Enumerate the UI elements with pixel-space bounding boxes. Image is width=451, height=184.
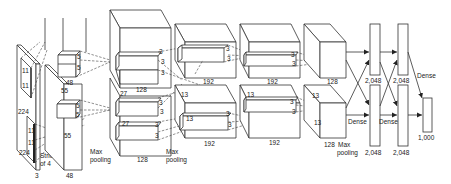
- dense-layers: 2,048 2,048 Dense Dense Dense 2,048 2,04…: [346, 24, 436, 156]
- conv3-spatial-top: 13: [181, 91, 189, 98]
- output-bar: [423, 98, 432, 132]
- conv1-kernel-top-b: 5: [77, 64, 81, 71]
- conv5-pool-label-line2: pooling: [337, 149, 358, 157]
- conv3-depth-top: 192: [203, 78, 214, 85]
- input-width-label: 224: [19, 149, 30, 156]
- input-kernel-label-c: 11: [28, 127, 35, 134]
- conv2-kernel-3: 3: [161, 69, 165, 76]
- conv2-pool-label-line1: Max: [166, 148, 179, 155]
- conv2-kernel-1: 3: [159, 48, 163, 55]
- conv5-layer: 128 13 13 128 Max pooling: [304, 24, 358, 157]
- conv2-spatial-top: 27: [120, 90, 128, 97]
- conv4-kernel-3: 3: [290, 98, 294, 105]
- input-kernel-label-b: 11: [22, 82, 29, 89]
- conv5-block-top: [304, 24, 346, 78]
- conv1-kernel-bottom-a: 5: [76, 102, 80, 109]
- fc6-top-size: 2,048: [365, 77, 382, 84]
- fc7-top-bar: [398, 24, 408, 75]
- input-kernel-label-d: 11: [28, 139, 35, 146]
- conv3-kernel-2: 3: [227, 55, 231, 62]
- conv5-spatial-b: 13: [314, 119, 322, 126]
- conv5-depth-top: 128: [327, 78, 338, 85]
- conv2-spatial-bottom: 27: [122, 120, 130, 127]
- conv4-kernel-2: 3: [292, 60, 296, 67]
- conv2-pool-label-line2: pooling: [166, 156, 187, 164]
- conv2-kernel-7: 3: [155, 132, 159, 139]
- conv2-depth-top: 128: [136, 86, 147, 93]
- stride-label-line2: of 4: [40, 160, 51, 167]
- conv3-kernel-4: 3: [228, 121, 232, 128]
- fc6-top-bar: [370, 24, 380, 75]
- conv4-depth-bottom: 192: [269, 139, 280, 146]
- fc7-bottom-size: 2,048: [393, 149, 410, 156]
- conv1-pool-label-line1: Max: [90, 148, 103, 155]
- conv1-layer: 5 5 48 55 5 5 55 48 Max pooling: [45, 18, 111, 179]
- input-height-label: 224: [18, 108, 29, 115]
- conv5-spatial-a: 13: [312, 92, 320, 99]
- conv4-kernel-4: 3: [292, 108, 296, 115]
- conv1-depth-top: 48: [66, 79, 74, 86]
- conv1-kernel-top-a: 5: [77, 53, 81, 60]
- fc6-bottom-bar: [370, 85, 380, 146]
- conv5-pool-label-line1: Max: [338, 141, 351, 148]
- fc7-top-size: 2,048: [393, 77, 410, 84]
- conv5-block-bottom: [304, 85, 346, 138]
- conv1-spatial-label: 55: [61, 87, 69, 94]
- conv4-depth-top: 192: [267, 78, 278, 85]
- alexnet-diagram: 11 11 224 11 11 224 Stride of 4 3: [0, 0, 451, 184]
- fc6-bottom-size: 2,048: [365, 149, 382, 156]
- conv3-spatial-bottom: 13: [186, 115, 194, 122]
- conv3-depth-bottom: 192: [204, 140, 215, 147]
- output-size: 1,000: [418, 134, 435, 141]
- conv2-depth-bottom: 128: [137, 156, 148, 163]
- input-kernel-label-a: 11: [22, 67, 29, 74]
- conv1-kernel-bottom-b: 5: [76, 111, 80, 118]
- conv2-kernel-4: 3: [159, 99, 163, 106]
- conv3-kernel-3: 3: [226, 110, 230, 117]
- conv4-kernel-1: 3: [291, 51, 295, 58]
- conv2-kernel-2: 3: [161, 58, 165, 65]
- conv3-kernel-1: 3: [226, 45, 230, 52]
- conv1-pool-label-line2: pooling: [90, 156, 111, 164]
- fc7-bottom-bar: [398, 85, 408, 146]
- input-depth-label: 3: [35, 172, 39, 179]
- conv2-kernel-6: 3: [155, 121, 159, 128]
- conv1-spatial-bottom: 55: [64, 132, 72, 139]
- conv4-spatial-top: 13: [247, 91, 255, 98]
- conv1-depth-bottom: 48: [66, 172, 74, 179]
- dense-label-top: Dense: [417, 72, 436, 79]
- dense-label-fc7: Dense: [379, 118, 398, 125]
- dense-label-fc6: Dense: [348, 118, 367, 125]
- conv5-depth-bottom: 128: [324, 141, 335, 148]
- conv2-kernel-5: 3: [160, 108, 164, 115]
